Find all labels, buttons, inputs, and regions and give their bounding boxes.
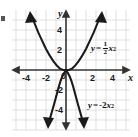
eq1-equals: = <box>96 44 101 53</box>
arrowhead-upper-left <box>25 11 37 23</box>
x-tick-label-neg4: -4 <box>22 74 30 83</box>
y-axis-arrow-up <box>63 11 69 17</box>
y-tick-label-neg2: -2 <box>55 86 63 95</box>
y-tick-label-pos2: 2 <box>57 46 62 55</box>
parabola-graph-figure: -4 -2 0 2 4 4 2 -2 -4 x y y = 1 2 x 2 y … <box>0 0 138 137</box>
x-axis-arrow-left <box>13 67 19 73</box>
arrowhead-lower-right <box>78 117 89 129</box>
y-tick-label-neg4: -4 <box>55 106 63 115</box>
arrowhead-upper-right <box>95 11 107 23</box>
equation-label-half-x-squared: y = 1 2 x 2 <box>91 41 116 56</box>
x-axis-label: x <box>128 73 133 83</box>
x-tick-label-pos4: 4 <box>110 74 115 83</box>
y-tick-label-pos4: 4 <box>57 26 62 35</box>
coordinate-plane-svg <box>0 0 138 137</box>
x-tick-label-neg2: -2 <box>42 74 50 83</box>
eq1-fraction: 1 2 <box>103 41 109 56</box>
x-tick-label-pos2: 2 <box>90 74 95 83</box>
eq2-equals: = <box>93 101 98 110</box>
eq2-coefficient: -2 <box>99 101 107 110</box>
eq1-variable: y <box>91 44 95 53</box>
y-axis-label: y <box>58 9 62 19</box>
eq2-variable: y <box>88 101 92 110</box>
y-axis-arrow-down <box>63 123 69 129</box>
eq2-exponent: 2 <box>111 103 114 109</box>
eq1-exponent: 2 <box>113 46 116 52</box>
arrowhead-lower-left <box>43 117 54 129</box>
eq1-denominator: 2 <box>103 48 109 56</box>
eq1-numerator: 1 <box>103 41 109 48</box>
equation-label-neg2-x-squared: y = -2 x 2 <box>88 101 114 110</box>
origin-label: 0 <box>61 72 66 81</box>
